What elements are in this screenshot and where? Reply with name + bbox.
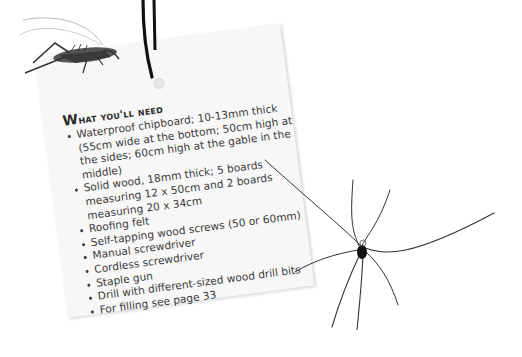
cricket-icon bbox=[15, 15, 125, 75]
tag-hole bbox=[153, 77, 165, 89]
spider-icon bbox=[260, 130, 522, 330]
